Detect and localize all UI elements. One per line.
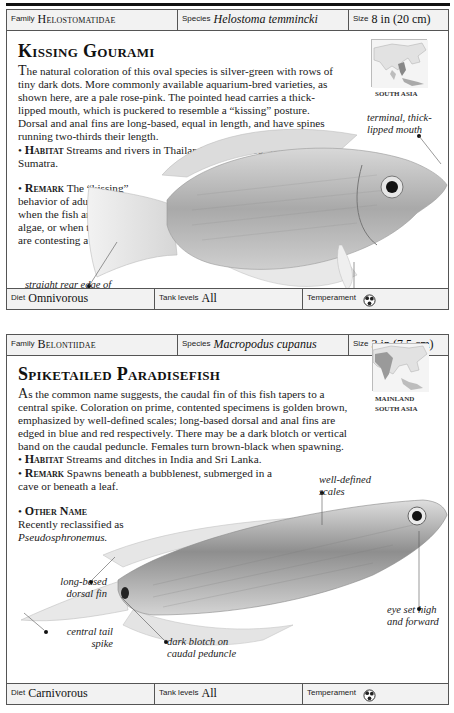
diet-value: Omnivorous <box>28 291 88 306</box>
species-label: Species <box>182 14 210 23</box>
remark-keyword: Remark <box>25 181 64 195</box>
leader-line-eye <box>417 531 423 609</box>
size-label: Size <box>353 14 369 23</box>
tank-cell: Tank levels All <box>155 289 303 309</box>
leader-line-dorsal <box>91 555 121 585</box>
drop-cap: A <box>18 386 28 401</box>
tank-label: Tank levels <box>159 293 199 302</box>
footer-strip: Diet Carnivorous Tank levels All Tempera… <box>7 683 448 704</box>
annotation-mouth: terminal, thick-lipped mouth <box>367 112 449 135</box>
size-value: 8 in (20 cm) <box>372 12 431 27</box>
size-label: Size <box>353 339 369 348</box>
leader-line-blotch <box>119 595 169 645</box>
leader-line-spike <box>22 611 48 633</box>
tank-label: Tank levels <box>159 688 199 697</box>
species-value: Macropodus cupanus <box>213 337 316 352</box>
tank-cell: Tank levels All <box>155 684 303 704</box>
temperament-cell: Temperament <box>303 684 448 704</box>
annotation-dark-blotch: dark blotch on caudal peduncle <box>167 636 237 659</box>
header-strip: Family Helostomatidae Species Helostoma … <box>7 10 448 31</box>
species-cell: Species Helostoma temmincki <box>178 10 349 30</box>
semi-aggressive-icon <box>363 294 376 307</box>
family-label: Family <box>11 339 35 348</box>
diet-cell: Diet Carnivorous <box>7 684 155 704</box>
temperament-label: Temperament <box>307 293 356 302</box>
map-south-asia-icon <box>372 40 428 88</box>
family-cell: Family Helostomatidae <box>7 10 178 30</box>
annotation-scales: well-defined scales <box>319 474 389 497</box>
species-label: Species <box>182 339 210 348</box>
species-title: Spiketailed Paradisefish <box>18 364 220 385</box>
leader-line-scales <box>320 493 326 527</box>
map-label: SOUTH ASIA <box>375 90 418 99</box>
species-entry-kissing-gourami: Family Helostomatidae Species Helostoma … <box>6 9 449 310</box>
species-entry-spiketailed-paradisefish: Family Belontiidae Species Macropodus cu… <box>6 334 449 705</box>
species-title: Kissing Gourami <box>18 41 155 62</box>
map-label-line1: MAINLAND <box>375 395 414 404</box>
family-value: Belontiidae <box>38 337 96 352</box>
species-cell: Species Macropodus cupanus <box>178 335 349 355</box>
remark-keyword: Remark <box>25 466 64 480</box>
diet-cell: Diet Omnivorous <box>7 289 155 309</box>
tank-value: All <box>202 291 217 306</box>
size-cell: Size 8 in (20 cm) <box>349 10 448 30</box>
habitat-keyword: Habitat <box>25 452 64 466</box>
kissing-gourami-illustration <box>77 105 449 310</box>
range-map <box>371 39 427 87</box>
habitat-keyword: Habitat <box>25 143 64 157</box>
semi-aggressive-icon <box>363 689 376 702</box>
range-map <box>372 343 428 391</box>
leader-line-mouth <box>407 134 447 174</box>
annotation-tail-spike: central tail spike <box>43 626 113 649</box>
map-mainland-south-asia-icon <box>373 344 429 392</box>
family-cell: Family Belontiidae <box>7 335 178 355</box>
family-label: Family <box>11 14 35 23</box>
diet-label: Diet <box>11 688 25 697</box>
temperament-cell: Temperament <box>303 289 448 309</box>
footer-strip: Diet Omnivorous Tank levels All Temperam… <box>7 288 448 309</box>
diet-label: Diet <box>11 293 25 302</box>
habitat-text: Streams and ditches in India and Sri Lan… <box>66 453 261 465</box>
top-rule <box>6 3 450 6</box>
temperament-label: Temperament <box>307 688 356 697</box>
tank-value: All <box>202 686 217 701</box>
description-text: s the common name suggests, the caudal f… <box>18 388 347 452</box>
leader-line-caudal <box>87 240 127 290</box>
species-value: Helostoma temmincki <box>213 12 317 27</box>
family-value: Helostomatidae <box>38 12 116 27</box>
diet-value: Carnivorous <box>28 686 87 701</box>
species-description: As the common name suggests, the caudal … <box>18 387 348 493</box>
map-label-line2: SOUTH ASIA <box>375 405 418 414</box>
drop-cap: T <box>18 63 27 78</box>
